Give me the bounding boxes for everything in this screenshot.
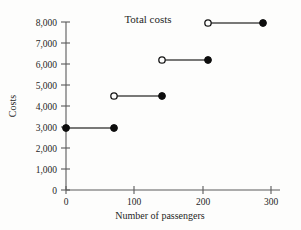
- marker-open-seg4-start: [205, 20, 211, 26]
- axis-titles-group: Number of passengers Costs: [7, 95, 205, 221]
- step-cost-chart: Total costs 8,000 7,000 6,000 5,000 4,00…: [0, 0, 301, 230]
- y-tick-label-7000: 7,000: [36, 39, 58, 49]
- marker-closed-seg3-end: [205, 57, 212, 64]
- marker-closed-seg2-end: [159, 93, 166, 100]
- axes-group: [66, 22, 280, 190]
- chart-title: Total costs: [124, 13, 171, 25]
- y-axis-title: Costs: [7, 95, 18, 117]
- y-tick-label-6000: 6,000: [36, 60, 58, 70]
- y-tick-label-5000: 5,000: [36, 81, 58, 91]
- x-tick-label-0: 0: [64, 197, 69, 207]
- y-axis-tick-labels-group: 8,000 7,000 6,000 5,000 4,000 3,000 2,00…: [36, 18, 58, 196]
- x-axis-title: Number of passengers: [115, 210, 205, 221]
- y-tick-label-0: 0: [52, 186, 57, 196]
- step-series-group: [66, 23, 263, 128]
- y-tick-label-4000: 4,000: [36, 102, 58, 112]
- marker-closed-seg4-end: [260, 20, 267, 27]
- marker-closed-seg1-end: [111, 125, 118, 132]
- chart-figure: Total costs 8,000 7,000 6,000 5,000 4,00…: [0, 0, 301, 230]
- chart-title-group: Total costs: [124, 13, 171, 25]
- y-tick-label-8000: 8,000: [36, 18, 58, 28]
- x-axis-tick-labels-group: 0 100 200 300: [64, 197, 279, 207]
- marker-open-seg2-start: [111, 93, 117, 99]
- y-tick-label-2000: 2,000: [36, 144, 58, 154]
- marker-open-seg3-start: [159, 57, 165, 63]
- y-tick-label-3000: 3,000: [36, 123, 58, 133]
- x-tick-label-100: 100: [127, 197, 142, 207]
- x-tick-label-200: 200: [196, 197, 211, 207]
- y-tick-label-1000: 1,000: [36, 165, 58, 175]
- marker-closed-seg1-start: [63, 125, 70, 132]
- x-tick-label-300: 300: [264, 197, 279, 207]
- step-markers-group: [63, 20, 267, 132]
